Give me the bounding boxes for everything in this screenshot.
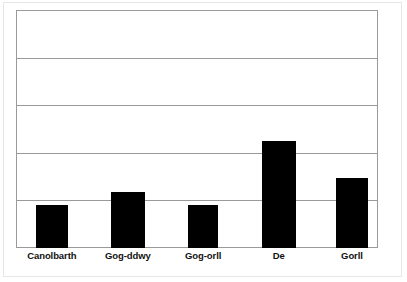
- bar-chart-figure: CanolbarthGog-ddwyGog-orllDeGorll: [0, 0, 407, 282]
- bar-gorll: [336, 178, 368, 248]
- bar-de: [262, 141, 296, 248]
- bar-canolbarth: [36, 205, 68, 248]
- bar-gog-ddwy: [111, 192, 145, 248]
- bar-gog-orll: [188, 205, 218, 248]
- x-tick-label-de: De: [273, 250, 285, 261]
- x-tick-label-gog-orll: Gog-orll: [185, 250, 221, 261]
- x-axis-label-group: CanolbarthGog-ddwyGog-orllDeGorll: [16, 250, 378, 272]
- x-tick-label-gog-ddwy: Gog-ddwy: [105, 250, 151, 261]
- x-tick-label-canolbarth: Canolbarth: [27, 250, 76, 261]
- bars-layer: [16, 10, 378, 248]
- x-tick-label-gorll: Gorll: [341, 250, 363, 261]
